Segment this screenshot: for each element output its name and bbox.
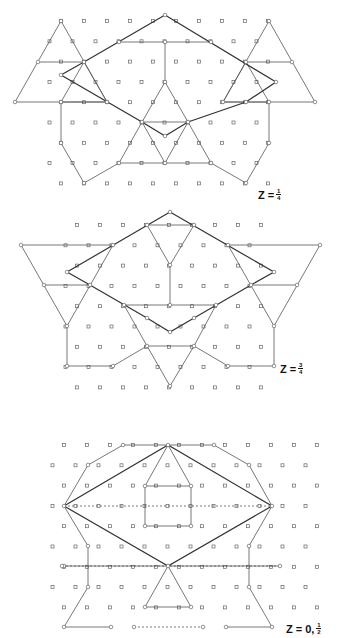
lattice-point-icon bbox=[260, 386, 263, 389]
atom-site-icon bbox=[62, 625, 66, 629]
lattice-point-icon bbox=[214, 386, 217, 389]
lattice-point-icon bbox=[74, 586, 77, 589]
atom-site-icon bbox=[247, 463, 251, 467]
lattice-point-icon bbox=[71, 121, 74, 124]
lattice-point-icon bbox=[198, 20, 201, 23]
lattice-point-icon bbox=[48, 121, 51, 124]
atom-site-icon bbox=[59, 73, 63, 77]
lattice-point-icon bbox=[83, 20, 86, 23]
atom-site-icon bbox=[82, 60, 86, 64]
lattice-point-icon bbox=[120, 464, 123, 467]
lattice-point-icon bbox=[120, 586, 123, 589]
atom-site-icon bbox=[244, 100, 248, 104]
lattice-point-icon bbox=[166, 545, 169, 548]
atom-site-icon bbox=[318, 243, 322, 247]
atom-site-icon bbox=[121, 443, 125, 447]
lattice-point-icon bbox=[214, 264, 217, 267]
lattice-point-icon bbox=[109, 444, 112, 447]
lattice-point-icon bbox=[63, 484, 66, 487]
atom-site-icon bbox=[42, 283, 46, 287]
fraction: 14 bbox=[276, 188, 281, 201]
atom-site-icon bbox=[111, 243, 115, 247]
lattice-point-icon bbox=[175, 182, 178, 185]
lattice-point-icon bbox=[258, 464, 261, 467]
lattice-point-icon bbox=[143, 545, 146, 548]
lattice-point-icon bbox=[133, 366, 136, 369]
bond-line bbox=[223, 21, 315, 102]
lattice-point-icon bbox=[117, 80, 120, 83]
fraction: 12 bbox=[316, 622, 321, 635]
bond-line bbox=[170, 225, 194, 265]
lattice-point-icon bbox=[244, 20, 247, 23]
lattice-point-icon bbox=[63, 606, 66, 609]
atom-site-icon bbox=[278, 564, 282, 568]
panel-z-three-quarter bbox=[19, 210, 322, 389]
atom-site-icon bbox=[247, 544, 251, 548]
lattice-point-icon bbox=[83, 141, 86, 144]
bond-line bbox=[170, 346, 194, 386]
lattice-point-icon bbox=[258, 545, 261, 548]
atom-site-icon bbox=[201, 625, 205, 629]
lattice-point-icon bbox=[237, 224, 240, 227]
lattice-point-icon bbox=[152, 60, 155, 63]
atom-site-icon bbox=[60, 564, 64, 568]
atom-site-icon bbox=[244, 181, 248, 185]
lattice-point-icon bbox=[198, 60, 201, 63]
lattice-point-icon bbox=[76, 224, 79, 227]
lattice-point-icon bbox=[76, 345, 79, 348]
lattice-point-icon bbox=[267, 182, 270, 185]
lattice-point-icon bbox=[235, 545, 238, 548]
lattice-point-icon bbox=[247, 606, 250, 609]
lattice-point-icon bbox=[106, 182, 109, 185]
bond-line bbox=[61, 15, 276, 136]
lattice-point-icon bbox=[86, 525, 89, 528]
lattice-point-icon bbox=[235, 464, 238, 467]
atom-site-icon bbox=[221, 100, 225, 104]
lattice-point-icon bbox=[155, 606, 158, 609]
atom-site-icon bbox=[189, 605, 193, 609]
lattice-point-icon bbox=[74, 464, 77, 467]
atom-site-icon bbox=[267, 100, 271, 104]
atom-site-icon bbox=[122, 303, 126, 307]
lattice-point-icon bbox=[224, 606, 227, 609]
lattice-point-icon bbox=[48, 80, 51, 83]
lattice-point-icon bbox=[202, 284, 205, 287]
lattice-point-icon bbox=[247, 444, 250, 447]
lattice-point-icon bbox=[237, 345, 240, 348]
atom-site-icon bbox=[313, 100, 317, 104]
atom-site-icon bbox=[59, 19, 63, 23]
atom-site-icon bbox=[145, 344, 149, 348]
bond-line bbox=[168, 566, 191, 607]
atom-site-icon bbox=[224, 625, 228, 629]
lattice-point-icon bbox=[133, 244, 136, 247]
label-prefix: Z = bbox=[280, 363, 296, 375]
lattice-point-icon bbox=[99, 386, 102, 389]
lattice-point-icon bbox=[129, 101, 132, 104]
atom-site-icon bbox=[209, 161, 213, 165]
bond-line bbox=[147, 225, 170, 265]
lattice-point-icon bbox=[143, 586, 146, 589]
atom-site-icon bbox=[140, 120, 144, 124]
panel-label-z-zero-half: Z = 0, 12 bbox=[286, 622, 321, 635]
lattice-point-icon bbox=[304, 586, 307, 589]
panel-label-z-quarter: Z = 14 bbox=[258, 188, 281, 201]
atom-site-icon bbox=[65, 364, 69, 368]
atom-site-icon bbox=[212, 443, 216, 447]
lattice-point-icon bbox=[201, 606, 204, 609]
bond-line bbox=[223, 62, 246, 102]
bond-line bbox=[142, 122, 165, 163]
lattice-point-icon bbox=[86, 444, 89, 447]
lattice-point-icon bbox=[133, 284, 136, 287]
lattice-point-icon bbox=[109, 525, 112, 528]
atom-site-icon bbox=[244, 60, 248, 64]
lattice-point-icon bbox=[235, 586, 238, 589]
atom-site-icon bbox=[290, 60, 294, 64]
lattice-point-icon bbox=[304, 504, 307, 507]
atom-site-icon bbox=[189, 484, 193, 488]
lattice-point-icon bbox=[212, 464, 215, 467]
atom-site-icon bbox=[209, 40, 213, 44]
atom-site-icon bbox=[168, 210, 172, 214]
atom-site-icon bbox=[36, 60, 40, 64]
atom-site-icon bbox=[88, 283, 92, 287]
lattice-point-icon bbox=[247, 484, 250, 487]
